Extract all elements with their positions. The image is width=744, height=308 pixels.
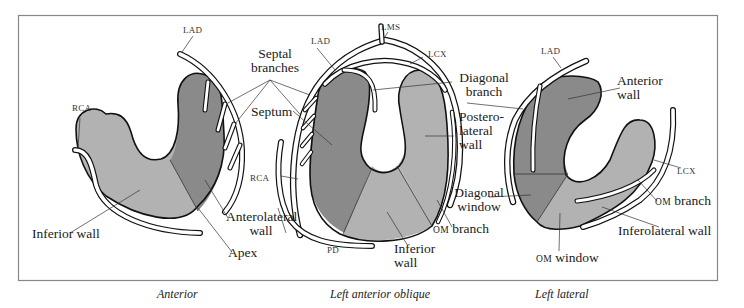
- caption-left-lateral: Left lateral: [535, 287, 589, 302]
- label-diagonal-line1: Diagonal: [453, 71, 515, 85]
- label-anterior-rca: RCA: [72, 104, 91, 113]
- label-lao-inferior-wall: Inferior wall: [394, 242, 435, 270]
- label-anterolateral-line2: wall: [226, 224, 296, 238]
- label-diagonal-window: Diagonal window: [447, 186, 511, 214]
- label-inferior-wall: Inferior wall: [32, 227, 100, 241]
- label-apex: Apex: [228, 246, 257, 260]
- label-diagonal-window-line1: Diagonal: [447, 186, 511, 200]
- label-lao-rca: RCA: [250, 174, 269, 183]
- label-lao-lms: LMS: [381, 23, 400, 32]
- label-lateral-om-branch-text: branch: [674, 193, 711, 208]
- label-anterolateral-line1: Anterolateral: [226, 210, 296, 224]
- label-lateral-lcx: LCX: [677, 167, 696, 176]
- label-diagonal-branch: Diagonal branch: [453, 71, 515, 99]
- label-lateral-om-branch: OM branch: [655, 194, 711, 208]
- label-inferolateral-wall: Inferolateral wall: [618, 224, 711, 238]
- label-posterolateral-line1: Postero-: [459, 110, 504, 124]
- coronary-territory-diagram: LAD RCA Septal branches Inferior wall An…: [0, 0, 744, 308]
- label-lao-om-branch-text: branch: [452, 221, 489, 236]
- label-posterolateral-line2: lateral: [459, 124, 504, 138]
- label-septal-line1: Septal: [245, 47, 305, 61]
- diagram-graphics: [0, 0, 744, 308]
- label-lao-om-branch: OM branch: [433, 222, 489, 236]
- label-pd: PD: [327, 246, 339, 255]
- label-lao-om-prefix: OM: [433, 225, 449, 235]
- label-om-window: OM window: [536, 251, 599, 265]
- label-lao-lad: LAD: [311, 37, 330, 46]
- label-septal-line2: branches: [245, 61, 305, 75]
- label-diagonal-window-line2: window: [447, 200, 511, 214]
- label-anterior-wall-line1: Anterior: [617, 74, 663, 88]
- label-lateral-lad: LAD: [541, 47, 560, 56]
- label-septum: Septum: [251, 105, 292, 119]
- caption-left-anterior-oblique: Left anterior oblique: [330, 287, 430, 302]
- label-anterior-wall: Anterior wall: [617, 74, 663, 102]
- anterior-wall-region: [514, 76, 601, 174]
- label-posterolateral-wall: Postero- lateral wall: [459, 110, 504, 153]
- label-om-window-text: window: [555, 250, 599, 265]
- label-anterior-lad: LAD: [183, 26, 202, 35]
- caption-anterior: Anterior: [157, 287, 198, 302]
- label-anterior-wall-line2: wall: [617, 88, 663, 102]
- label-om-window-prefix: OM: [536, 254, 552, 264]
- label-diagonal-line2: branch: [453, 85, 515, 99]
- label-lao-lcx: LCX: [428, 50, 447, 59]
- label-lao-inferior-line2: wall: [394, 256, 435, 270]
- label-lao-inferior-line1: Inferior: [394, 242, 435, 256]
- label-anterolateral-wall: Anterolateral wall: [226, 210, 296, 238]
- label-posterolateral-line3: wall: [459, 138, 504, 152]
- label-lateral-om-prefix: OM: [655, 197, 671, 207]
- label-septal-branches: Septal branches: [245, 47, 305, 75]
